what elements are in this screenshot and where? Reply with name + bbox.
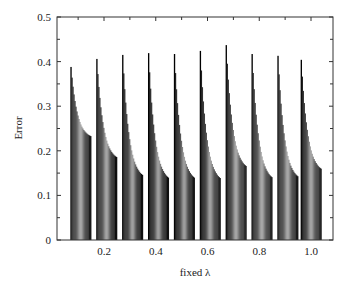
y-tick-label: 0.4	[37, 56, 51, 68]
x-tick-label: 0.2	[97, 245, 111, 257]
y-tick-label: 0.5	[37, 11, 51, 23]
x-axis-label: fixed λ	[180, 266, 211, 278]
y-tick-label: 0.1	[37, 189, 51, 201]
error-vs-lambda-chart: 00.10.20.30.40.5 0.20.40.60.81.0 Error f…	[0, 0, 349, 291]
y-axis-label: Error	[12, 116, 24, 140]
x-tick-label: 1.0	[304, 245, 318, 257]
x-tick-label: 0.6	[201, 245, 215, 257]
y-tick-label: 0	[46, 234, 52, 246]
y-tick-label: 0.3	[37, 100, 51, 112]
y-tick-label: 0.2	[37, 145, 51, 157]
x-tick-label: 0.8	[252, 245, 266, 257]
x-tick-label: 0.4	[149, 245, 163, 257]
